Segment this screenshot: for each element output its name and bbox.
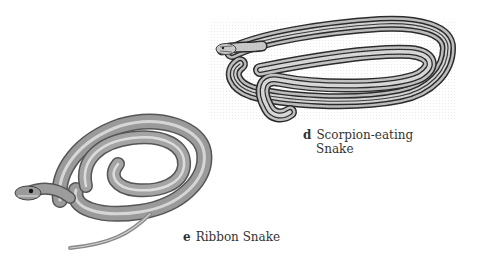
ribbon-snake-illustration	[15, 122, 204, 248]
caption-name-line1: Scorpion-eating	[316, 128, 413, 142]
scorpion-eating-snake-illustration	[210, 20, 455, 120]
caption-name-line2: Snake	[316, 142, 353, 156]
caption-name: Ribbon Snake	[196, 230, 280, 244]
caption-letter-d: d	[303, 128, 311, 142]
caption-ribbon-snake: eRibbon Snake	[183, 230, 280, 244]
snake-e-head	[15, 186, 41, 200]
snake-e-eye	[29, 189, 33, 193]
caption-scorpion-eating-snake: dScorpion-eating Snake	[303, 128, 413, 156]
snake-d-head	[216, 44, 236, 55]
snake-d-eye	[222, 47, 224, 49]
caption-letter-e: e	[183, 230, 191, 244]
